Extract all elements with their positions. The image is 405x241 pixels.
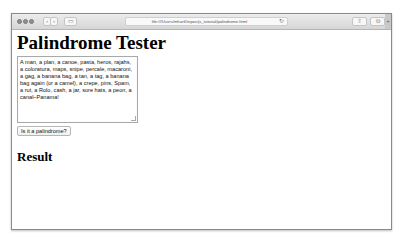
plus-icon: + (386, 18, 390, 24)
resize-handle-icon[interactable] (131, 116, 136, 121)
zoom-window-button[interactable] (29, 19, 34, 24)
textarea-value: A man, a plan, a canoe, pasta, heros, ra… (20, 59, 132, 100)
share-icon: ⇧ (357, 18, 362, 24)
browser-window: ‹ › ▭ file:///Users/mhartl/repos/js_tuto… (11, 13, 392, 230)
forward-button[interactable]: › (50, 17, 58, 26)
address-bar[interactable]: file:///Users/mhartl/repos/js_tutorial/p… (125, 17, 288, 26)
back-icon: ‹ (46, 18, 48, 24)
sidebar-button[interactable]: ▭ (64, 17, 77, 26)
is-palindrome-button[interactable]: Is it a palindrome? (17, 126, 71, 136)
minimize-window-button[interactable] (23, 19, 28, 24)
page-title: Palindrome Tester (17, 32, 166, 54)
result-heading: Result (17, 149, 52, 164)
sidebar-icon: ▭ (68, 18, 74, 24)
palindrome-textarea[interactable]: A man, a plan, a canoe, pasta, heros, ra… (17, 56, 138, 123)
forward-icon: › (53, 18, 55, 24)
show-tabs-button[interactable]: ⧉ (370, 17, 385, 26)
tabs-icon: ⧉ (376, 18, 380, 24)
reload-icon[interactable]: ↻ (279, 18, 284, 25)
browser-toolbar: ‹ › ▭ file:///Users/mhartl/repos/js_tuto… (12, 14, 391, 30)
url-text: file:///Users/mhartl/repos/js_tutorial/p… (126, 18, 273, 25)
new-tab-button[interactable]: + (385, 14, 391, 29)
page-content: Palindrome Tester A man, a plan, a canoe… (12, 29, 391, 229)
share-button[interactable]: ⇧ (352, 17, 367, 26)
close-window-button[interactable] (17, 19, 22, 24)
